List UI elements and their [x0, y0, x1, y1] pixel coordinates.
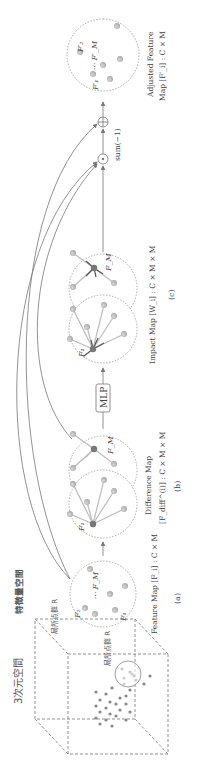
title-3d-space: 3次元空間 — [12, 658, 24, 704]
caption-out-line1: Adjusted Feature — [146, 31, 155, 98]
node-label-out-fm: ⋯ F′_M — [90, 40, 99, 71]
node-label-b-fm: F_M — [106, 435, 115, 455]
mlp-label: MLP — [99, 387, 109, 408]
caption-out-line2: Map [F′_i] : C × M — [158, 31, 167, 101]
local-region-circle — [115, 661, 141, 687]
label-a: (a) — [173, 593, 182, 604]
title-feature-space: 特徴量空間 — [14, 569, 24, 614]
local-group-label-feature: 局所点群 R — [50, 599, 59, 634]
node-label-out-f2: F′₂ — [76, 41, 85, 53]
node-label-c-fm: F_M — [104, 252, 113, 272]
caption-b-line2: [F_diff^(i)] : C × M × M — [158, 431, 167, 524]
pipeline-diagram: 3次元空間 局所点群 R 特徴量空間 局所点群 R F₂ F₁ ⋯ F_M Fe… — [0, 0, 207, 764]
diagram-frame: 3次元空間 局所点群 R 特徴量空間 局所点群 R F₂ F₁ ⋯ F_M Fe… — [0, 0, 207, 764]
feature-nodes — [82, 566, 128, 617]
node-label-out-f1: F′₁ — [91, 79, 100, 91]
caption-c: Impact Map [W_i] : C × M × M — [148, 245, 157, 364]
label-c: (c) — [167, 289, 176, 300]
node-label-f2: F₂ — [73, 609, 82, 619]
difference-map — [67, 431, 137, 538]
caption-b-line1: Difference Map — [144, 456, 153, 515]
node-label-c-f1: F₁ — [77, 348, 86, 358]
node-label-b-f1: F₁ — [77, 522, 86, 532]
node-label-f1: F₁ — [119, 612, 128, 622]
adjusted-map-circle — [67, 19, 139, 91]
sum-label: sum(−1) — [113, 128, 122, 161]
node-label-fm: ⋯ F_M — [91, 571, 100, 600]
caption-a: Feature Map [F_i] : C × M — [150, 533, 159, 634]
label-b: (b) — [173, 481, 182, 492]
impact-map — [67, 250, 137, 363]
cube-3d-space — [35, 619, 168, 754]
local-group-label-3d: 局所点群 R — [103, 631, 112, 666]
